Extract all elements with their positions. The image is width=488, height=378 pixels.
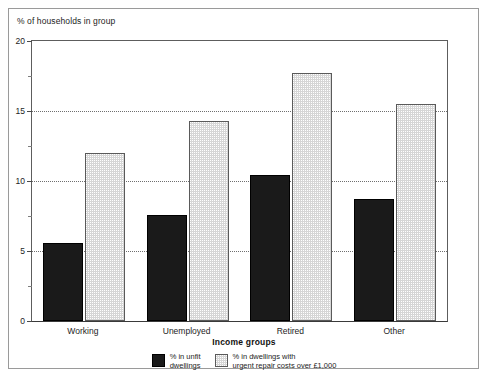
legend-label-repair: % in dwellings with urgent repair costs …	[233, 353, 337, 370]
legend-item-repair: % in dwellings with urgent repair costs …	[215, 353, 337, 370]
bar-repair-retired	[292, 73, 332, 321]
y-tick-minor	[28, 286, 32, 287]
y-tick-label: 10	[16, 176, 25, 186]
legend-swatch-unfit	[152, 354, 165, 367]
y-tick	[27, 181, 32, 182]
x-axis-label-other: Other	[383, 326, 404, 336]
y-tick-label: 5	[20, 246, 25, 256]
legend-label-unfit: % in unfit dwellings	[170, 353, 201, 370]
y-tick-minor	[28, 76, 32, 77]
bar-unfit-other	[354, 199, 394, 321]
y-axis-title: % of households in group	[17, 16, 115, 26]
legend-item-unfit: % in unfit dwellings	[152, 353, 201, 370]
y-tick	[27, 321, 32, 322]
chart-figure: % of households in group 05101520 Workin…	[0, 0, 488, 378]
bar-repair-working	[85, 153, 125, 321]
y-tick-label: 0	[20, 316, 25, 326]
x-axis-label-unemployed: Unemployed	[163, 326, 211, 336]
y-tick	[27, 111, 32, 112]
chart-legend: % in unfit dwellings% in dwellings with …	[0, 353, 488, 370]
bar-repair-other	[396, 104, 436, 321]
y-tick-minor	[28, 216, 32, 217]
y-tick	[27, 251, 32, 252]
plot-area: 05101520	[31, 40, 448, 322]
y-tick-label: 20	[16, 36, 25, 46]
x-axis-title: Income groups	[0, 337, 488, 347]
x-axis-label-retired: Retired	[277, 326, 304, 336]
x-axis-label-working: Working	[67, 326, 98, 336]
y-tick-minor	[28, 146, 32, 147]
bar-unfit-working	[43, 243, 83, 321]
gridline	[32, 111, 447, 112]
legend-swatch-repair	[215, 354, 228, 367]
bar-unfit-unemployed	[147, 215, 187, 321]
y-tick	[27, 41, 32, 42]
bar-unfit-retired	[250, 175, 290, 321]
bar-repair-unemployed	[189, 121, 229, 321]
y-tick-label: 15	[16, 106, 25, 116]
